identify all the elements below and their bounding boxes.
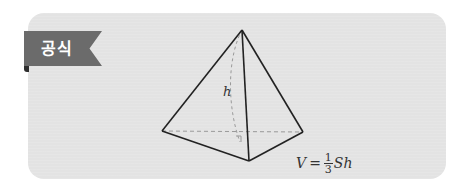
fraction-numerator: 1 (324, 152, 333, 164)
formula-fraction: 1 3 (324, 152, 333, 175)
height-line (231, 30, 243, 142)
height-label: h (223, 84, 231, 99)
volume-formula: V = 1 3 Sh (296, 145, 352, 181)
fraction-denominator: 3 (325, 164, 332, 175)
visible-edges (162, 30, 303, 161)
formula-rhs: Sh (334, 155, 353, 171)
hidden-base-edge (162, 131, 303, 132)
pyramid-figure (0, 0, 466, 189)
formula-lhs: V (296, 155, 306, 171)
formula-equals: = (309, 155, 321, 171)
